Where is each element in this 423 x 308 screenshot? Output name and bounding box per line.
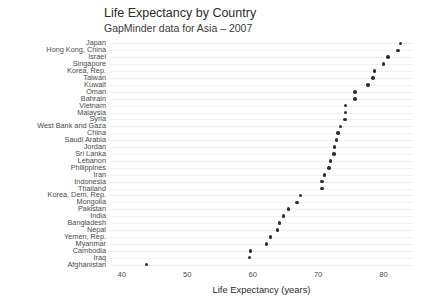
data-point	[276, 228, 280, 232]
x-axis-tick-label: 80	[379, 270, 387, 279]
data-point	[327, 166, 331, 170]
y-axis-tick-label: Afghanistan	[67, 261, 106, 269]
data-point	[248, 256, 252, 260]
data-point	[282, 214, 286, 218]
gridline	[110, 244, 413, 245]
data-point	[333, 145, 337, 149]
data-point	[145, 263, 149, 267]
data-point	[332, 152, 336, 156]
x-axis-tick-label: 70	[314, 270, 322, 279]
x-axis-tick-label: 50	[183, 270, 191, 279]
gridline	[110, 230, 413, 231]
gridline	[110, 202, 413, 203]
x-axis-tick-label: 40	[118, 270, 126, 279]
gridline	[110, 78, 413, 79]
gridline	[110, 99, 413, 100]
gridline	[110, 258, 413, 259]
gridline	[110, 223, 413, 224]
gridline	[110, 71, 413, 72]
data-point	[335, 138, 339, 142]
gridline	[110, 237, 413, 238]
x-axis-ticks: 4050607080	[110, 270, 413, 282]
data-point	[249, 249, 253, 253]
data-point	[343, 118, 347, 122]
data-point	[353, 90, 357, 94]
plot-panel	[110, 40, 413, 268]
data-point	[373, 69, 377, 73]
gridline	[110, 154, 413, 155]
gridline	[110, 251, 413, 252]
gridline	[110, 57, 413, 58]
data-point	[386, 55, 390, 59]
gridline	[110, 140, 413, 141]
gridline	[110, 119, 413, 120]
data-point	[265, 242, 269, 246]
data-point	[329, 159, 333, 163]
data-point	[366, 83, 370, 87]
gridline	[110, 113, 413, 114]
title-block: Life Expectancy by Country GapMinder dat…	[104, 5, 404, 35]
gridline	[110, 265, 413, 266]
data-point	[295, 201, 299, 205]
data-point	[339, 125, 343, 129]
y-axis-labels: JapanHong Kong, ChinaIsraelSingaporeKore…	[0, 40, 106, 268]
data-point	[382, 62, 386, 66]
gridline	[110, 216, 413, 217]
data-point	[399, 42, 403, 46]
data-point	[396, 49, 400, 53]
gridline	[110, 50, 413, 51]
gridline	[110, 126, 413, 127]
chart-title: Life Expectancy by Country	[104, 5, 404, 21]
gridline	[110, 43, 413, 44]
gridline	[110, 175, 413, 176]
data-point	[353, 97, 357, 101]
gridline	[110, 64, 413, 65]
data-point	[336, 131, 340, 135]
data-point	[287, 207, 291, 211]
chart-subtitle: GapMinder data for Asia – 2007	[104, 21, 404, 35]
data-point	[278, 221, 282, 225]
data-point	[320, 187, 324, 191]
gridline	[110, 147, 413, 148]
gridline	[110, 133, 413, 134]
gridline	[110, 161, 413, 162]
data-point	[269, 235, 273, 239]
data-point	[344, 104, 348, 108]
data-point	[299, 194, 303, 198]
data-point	[344, 111, 348, 115]
chart-root: Life Expectancy by Country GapMinder dat…	[0, 0, 423, 308]
gridline	[110, 168, 413, 169]
gridline	[110, 195, 413, 196]
gridline	[110, 182, 413, 183]
x-axis-tick-label: 60	[248, 270, 256, 279]
gridline	[110, 92, 413, 93]
data-point	[371, 76, 375, 80]
gridline	[110, 106, 413, 107]
data-point	[323, 173, 327, 177]
gridline	[110, 209, 413, 210]
data-point	[320, 180, 324, 184]
gridline	[110, 189, 413, 190]
x-axis-title: Life Expectancy (years)	[110, 284, 413, 295]
